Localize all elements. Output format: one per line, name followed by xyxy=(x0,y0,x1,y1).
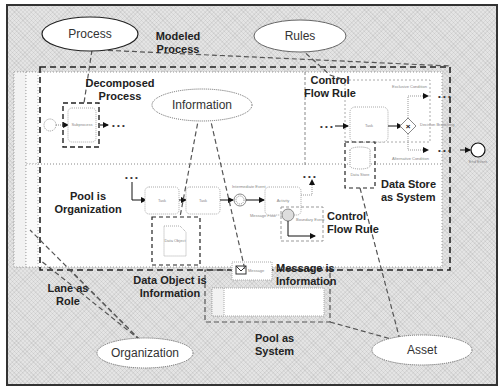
svg-text:Organization: Organization xyxy=(54,203,122,215)
svg-text:System: System xyxy=(255,345,294,357)
start-event-icon xyxy=(44,119,56,131)
svg-text:• • •: • • • xyxy=(438,146,451,155)
svg-text:Decision Branching: Decision Branching xyxy=(420,122,454,127)
svg-text:Process: Process xyxy=(157,43,200,55)
svg-text:Data Store: Data Store xyxy=(350,172,370,177)
svg-text:End Event: End Event xyxy=(469,159,488,164)
label-data-store-system: Data Store xyxy=(381,178,436,190)
svg-text:Information: Information xyxy=(172,98,232,112)
external-pool xyxy=(212,288,324,316)
svg-text:as System: as System xyxy=(381,191,436,203)
svg-text:• • •: • • • xyxy=(303,172,316,181)
svg-text:Process: Process xyxy=(99,90,142,102)
label-control-flow-rule-bottom: Control xyxy=(327,210,366,222)
svg-text:Exclusive Condition: Exclusive Condition xyxy=(392,84,427,89)
label-pool-is-organization: Pool is xyxy=(70,190,106,202)
concept-asset: Asset xyxy=(372,335,472,365)
svg-text:• • •: • • • xyxy=(438,92,451,101)
svg-text:Information: Information xyxy=(276,275,337,287)
concept-organization: Organization xyxy=(97,338,193,368)
svg-text:Task: Task xyxy=(158,198,166,203)
data-store-icon xyxy=(350,150,370,169)
external-pool-header xyxy=(212,288,224,316)
svg-text:Information: Information xyxy=(140,287,201,299)
pool-header xyxy=(14,72,26,267)
svg-text:Boundary Event: Boundary Event xyxy=(296,217,325,222)
lane-header-top xyxy=(26,72,38,164)
lane-header-bottom xyxy=(26,164,38,267)
svg-text:Flow Rule: Flow Rule xyxy=(327,223,379,235)
concept-process: Process xyxy=(42,17,138,51)
svg-text:Organization: Organization xyxy=(111,346,179,360)
svg-text:• • •: • • • xyxy=(112,121,125,130)
svg-text:• • •: • • • xyxy=(320,122,333,131)
svg-text:Intermediate Event: Intermediate Event xyxy=(232,184,266,189)
end-event-icon xyxy=(471,143,485,157)
svg-text:Message: Message xyxy=(248,268,265,273)
svg-text:Activity: Activity xyxy=(277,198,290,203)
label-data-object-information: Data Object is xyxy=(133,274,206,286)
bpmn-concept-diagram: Subprocess • • • • • • Task × Decision B… xyxy=(0,0,501,390)
concept-rules: Rules xyxy=(254,20,346,52)
svg-text:Subprocess: Subprocess xyxy=(71,122,92,127)
label-message-information: Message is xyxy=(276,262,335,274)
label-control-flow-rule-top: Control xyxy=(310,74,349,86)
svg-text:Task: Task xyxy=(365,123,373,128)
label-modeled-process: Modeled xyxy=(156,30,201,42)
svg-text:Asset: Asset xyxy=(407,343,438,357)
label-decomposed-process: Decomposed xyxy=(85,77,154,89)
label-lane-as-role: Lane as xyxy=(48,282,89,294)
svg-text:• • •: • • • xyxy=(125,173,138,182)
svg-text:Alternative Condition: Alternative Condition xyxy=(392,156,429,161)
svg-text:Process: Process xyxy=(68,27,111,41)
svg-text:Task: Task xyxy=(199,198,207,203)
svg-text:Rules: Rules xyxy=(285,29,316,43)
svg-text:×: × xyxy=(406,122,411,131)
svg-text:Data Object: Data Object xyxy=(164,238,186,243)
boundary-event-icon xyxy=(282,209,294,221)
svg-text:Flow Rule: Flow Rule xyxy=(304,87,356,99)
svg-text:Role: Role xyxy=(56,295,80,307)
concept-information: Information xyxy=(152,89,252,121)
label-pool-as-system: Pool as xyxy=(255,332,294,344)
